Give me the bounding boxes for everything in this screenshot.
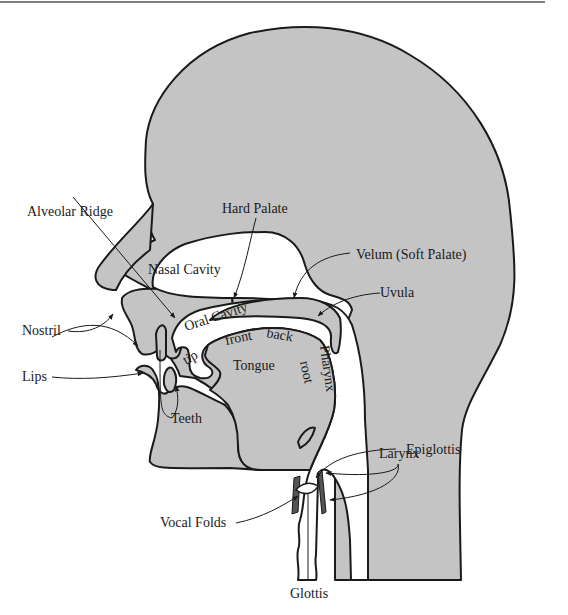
label-nasal-cavity: Nasal Cavity — [148, 262, 221, 277]
label-vocal-folds: Vocal Folds — [160, 515, 226, 530]
lower-teeth — [164, 368, 176, 392]
label-nostril: Nostril — [22, 323, 61, 338]
label-alveolar-ridge: Alveolar Ridge — [27, 204, 113, 219]
label-tongue: Tongue — [233, 358, 275, 373]
label-lips: Lips — [22, 369, 47, 384]
label-uvula: Uvula — [380, 285, 415, 300]
larynx-cartilage-left — [292, 476, 300, 514]
label-hard-palate: Hard Palate — [222, 201, 288, 216]
label-teeth: Teeth — [171, 411, 202, 426]
label-glottis: Glottis — [290, 586, 328, 601]
vocal-tract-diagram: Alveolar Ridge Hard Palate Nasal Cavity … — [0, 0, 568, 615]
label-larynx: Larynx — [379, 446, 419, 461]
upper-teeth — [156, 325, 166, 360]
larynx-cartilage-right — [318, 470, 326, 514]
label-velum: Velum (Soft Palate) — [356, 247, 467, 263]
